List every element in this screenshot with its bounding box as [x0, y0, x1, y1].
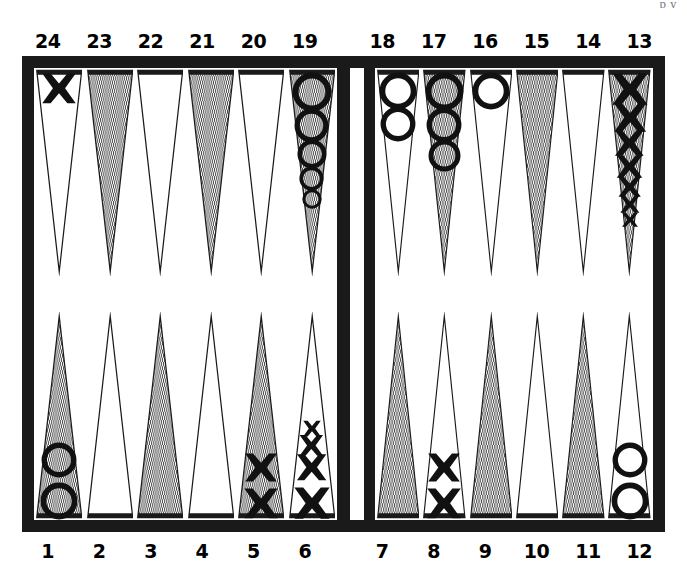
point-label-12: 12 — [614, 538, 665, 564]
point-triangle-3 — [137, 312, 183, 520]
point-14[interactable] — [560, 68, 606, 294]
point-17[interactable] — [421, 68, 467, 294]
point-label-1: 1 — [22, 538, 73, 564]
point-triangle-16 — [470, 68, 513, 276]
point-21[interactable] — [186, 68, 237, 294]
point-triangle-17 — [423, 68, 466, 276]
point-triangle-24 — [36, 68, 82, 276]
point-10[interactable] — [514, 294, 560, 520]
point-5[interactable] — [236, 294, 287, 520]
quadrant-top-left — [34, 68, 337, 294]
point-triangle-15 — [516, 68, 559, 276]
point-label-23: 23 — [73, 28, 124, 54]
point-label-13: 13 — [614, 28, 665, 54]
bottom-point-labels: 1 2 3 4 5 6 7 8 9 10 11 12 — [22, 538, 665, 564]
board-frame — [22, 56, 665, 532]
center-bar-gap — [350, 68, 364, 520]
point-4[interactable] — [186, 294, 237, 520]
quadrant-top-right — [375, 68, 653, 294]
bottom-left-labels: 1 2 3 4 5 6 — [22, 538, 331, 564]
point-triangle-6 — [289, 312, 335, 520]
point-label-4: 4 — [176, 538, 227, 564]
point-triangle-14 — [562, 68, 605, 276]
point-label-2: 2 — [73, 538, 124, 564]
point-label-18: 18 — [357, 28, 408, 54]
point-16[interactable] — [468, 68, 514, 294]
top-label-bar-gap — [331, 28, 357, 54]
point-8[interactable] — [421, 294, 467, 520]
point-triangle-2 — [87, 312, 133, 520]
bottom-label-bar-gap — [331, 538, 357, 564]
point-triangle-20 — [238, 68, 284, 276]
point-15[interactable] — [514, 68, 560, 294]
center-bar-left-rail — [337, 68, 350, 520]
point-triangle-18 — [377, 68, 420, 276]
point-13[interactable] — [607, 68, 653, 294]
quadrant-bottom-left — [34, 294, 337, 520]
point-triangle-5 — [238, 312, 284, 520]
point-triangle-10 — [516, 312, 559, 520]
point-label-21: 21 — [176, 28, 227, 54]
cut-off-caption-text: p y — [660, 0, 677, 8]
quadrant-bottom-right — [375, 294, 653, 520]
point-22[interactable] — [135, 68, 186, 294]
point-triangle-13 — [608, 68, 651, 276]
point-triangle-7 — [377, 312, 420, 520]
point-24[interactable] — [34, 68, 85, 294]
point-label-8: 8 — [408, 538, 459, 564]
point-3[interactable] — [135, 294, 186, 520]
point-triangle-12 — [608, 312, 651, 520]
point-triangle-1 — [36, 312, 82, 520]
point-label-15: 15 — [511, 28, 562, 54]
point-triangle-9 — [470, 312, 513, 520]
bottom-right-labels: 7 8 9 10 11 12 — [357, 538, 666, 564]
point-19[interactable] — [287, 68, 338, 294]
point-triangle-11 — [562, 312, 605, 520]
point-20[interactable] — [236, 68, 287, 294]
point-label-6: 6 — [279, 538, 330, 564]
point-7[interactable] — [375, 294, 421, 520]
board-playing-surface — [34, 68, 653, 520]
top-point-labels: 24 23 22 21 20 19 18 17 16 15 14 13 — [22, 28, 665, 54]
top-left-labels: 24 23 22 21 20 19 — [22, 28, 331, 54]
point-label-3: 3 — [125, 538, 176, 564]
center-bar-right-rail — [364, 68, 375, 520]
point-label-7: 7 — [357, 538, 408, 564]
point-label-20: 20 — [228, 28, 279, 54]
point-triangle-8 — [423, 312, 466, 520]
point-label-9: 9 — [459, 538, 510, 564]
point-label-24: 24 — [22, 28, 73, 54]
point-label-10: 10 — [511, 538, 562, 564]
point-23[interactable] — [85, 68, 136, 294]
top-right-labels: 18 17 16 15 14 13 — [357, 28, 666, 54]
point-triangle-4 — [188, 312, 234, 520]
point-triangle-19 — [289, 68, 335, 276]
backgammon-board-figure: p y 24 23 22 21 20 19 18 17 16 15 14 13 — [0, 0, 687, 586]
point-18[interactable] — [375, 68, 421, 294]
point-11[interactable] — [560, 294, 606, 520]
point-label-11: 11 — [562, 538, 613, 564]
point-label-17: 17 — [408, 28, 459, 54]
point-1[interactable] — [34, 294, 85, 520]
point-6[interactable] — [287, 294, 338, 520]
point-label-16: 16 — [459, 28, 510, 54]
point-triangle-21 — [188, 68, 234, 276]
point-triangle-23 — [87, 68, 133, 276]
point-2[interactable] — [85, 294, 136, 520]
point-label-22: 22 — [125, 28, 176, 54]
point-label-19: 19 — [279, 28, 330, 54]
point-label-5: 5 — [228, 538, 279, 564]
point-12[interactable] — [607, 294, 653, 520]
point-9[interactable] — [468, 294, 514, 520]
point-label-14: 14 — [562, 28, 613, 54]
point-triangle-22 — [137, 68, 183, 276]
